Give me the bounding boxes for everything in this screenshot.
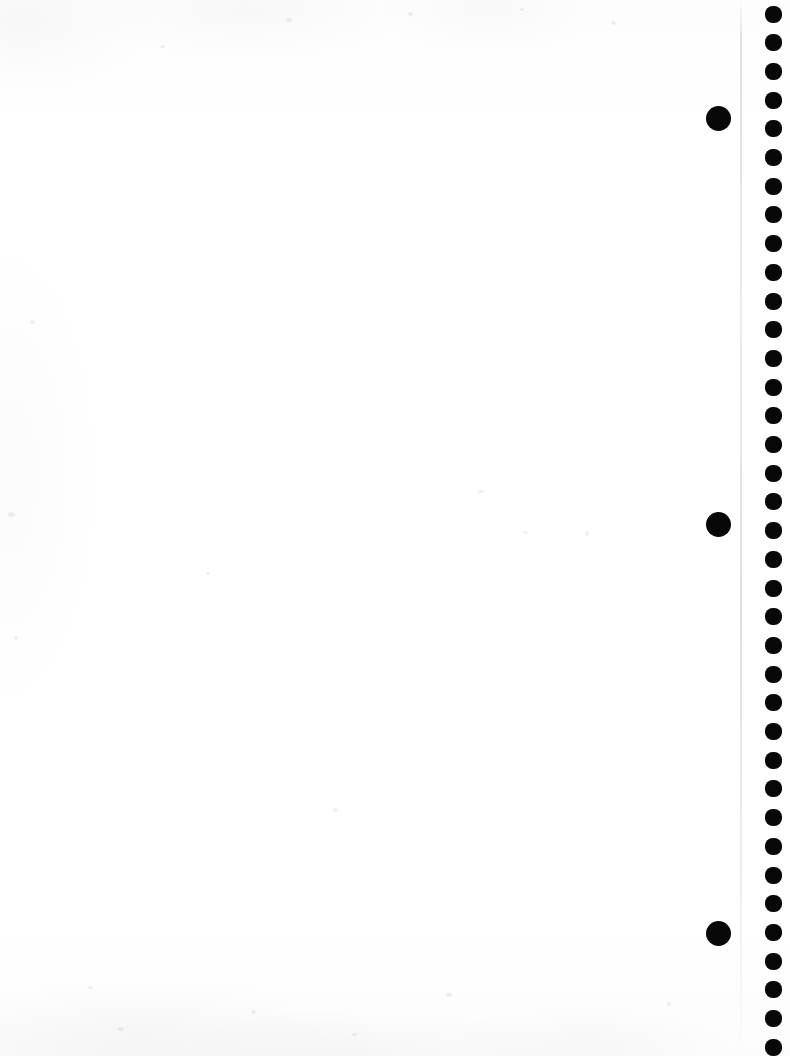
paper-speck-16 bbox=[667, 1002, 671, 1006]
small-punch-dot-5-icon bbox=[765, 120, 782, 137]
small-punch-dot-23-icon bbox=[765, 637, 782, 654]
small-punch-dot-13-icon bbox=[765, 350, 782, 367]
small-punch-dot-10-icon bbox=[765, 264, 782, 281]
small-punch-dot-35-icon bbox=[765, 981, 782, 998]
paper-speck-18 bbox=[206, 572, 210, 575]
small-punch-dot-7-icon bbox=[765, 178, 782, 195]
small-punch-dot-37-icon bbox=[765, 1039, 782, 1056]
paper-speck-1 bbox=[30, 320, 35, 324]
small-punch-dot-1-icon bbox=[765, 6, 782, 23]
small-punch-dot-8-icon bbox=[765, 206, 782, 223]
large-dot-3-icon bbox=[706, 921, 731, 946]
small-punch-dot-32-icon bbox=[765, 895, 782, 912]
paper-speck-11 bbox=[523, 531, 528, 534]
small-punch-dot-12-icon bbox=[765, 321, 782, 338]
paper-speck-3 bbox=[14, 636, 18, 640]
paper-speck-15 bbox=[352, 1033, 357, 1036]
small-punch-dot-28-icon bbox=[765, 780, 782, 797]
paper-speck-17 bbox=[88, 986, 93, 989]
small-punch-dot-36-icon bbox=[765, 1010, 782, 1027]
small-punch-dot-17-icon bbox=[765, 465, 782, 482]
paper-speck-13 bbox=[251, 1010, 256, 1014]
paper-speck-19 bbox=[333, 808, 338, 812]
small-punch-dot-9-icon bbox=[765, 235, 782, 252]
paper-speck-6 bbox=[408, 12, 413, 16]
small-punch-dot-26-icon bbox=[765, 723, 782, 740]
small-punch-dot-6-icon bbox=[765, 149, 782, 166]
small-punch-dot-25-icon bbox=[765, 694, 782, 711]
scanned-page bbox=[0, 0, 790, 1056]
page-body-text bbox=[0, 0, 1, 1]
paper-texture bbox=[0, 0, 790, 1056]
small-punch-dot-33-icon bbox=[765, 924, 782, 941]
crease-line bbox=[740, 0, 742, 1056]
paper-speck-10 bbox=[585, 531, 589, 536]
small-punch-dot-21-icon bbox=[765, 580, 782, 597]
small-punch-dot-34-icon bbox=[765, 953, 782, 970]
small-punch-dot-3-icon bbox=[765, 63, 782, 80]
small-punch-dot-22-icon bbox=[765, 608, 782, 625]
small-punch-dot-27-icon bbox=[765, 752, 782, 769]
small-punch-dot-30-icon bbox=[765, 838, 782, 855]
small-punch-dot-15-icon bbox=[765, 407, 782, 424]
paper-speck-12 bbox=[446, 993, 452, 997]
small-punch-dot-16-icon bbox=[765, 436, 782, 453]
paper-speck-9 bbox=[478, 490, 484, 493]
small-punch-dot-31-icon bbox=[765, 867, 782, 884]
paper-speck-7 bbox=[520, 8, 524, 11]
small-punch-dot-24-icon bbox=[765, 666, 782, 683]
small-punch-dot-18-icon bbox=[765, 493, 782, 510]
large-dot-1-icon bbox=[706, 106, 731, 131]
paper-speck-14 bbox=[118, 1027, 124, 1031]
small-punch-dot-20-icon bbox=[765, 551, 782, 568]
paper-speck-8 bbox=[611, 21, 616, 25]
small-punch-dot-2-icon bbox=[765, 34, 782, 51]
small-punch-dot-29-icon bbox=[765, 809, 782, 826]
large-dot-2-icon bbox=[706, 512, 731, 537]
paper-speck-2 bbox=[8, 512, 15, 517]
small-punch-dot-4-icon bbox=[765, 92, 782, 109]
paper-speck-5 bbox=[286, 18, 292, 22]
small-punch-dot-19-icon bbox=[765, 522, 782, 539]
small-punch-dot-14-icon bbox=[765, 379, 782, 396]
small-punch-dot-11-icon bbox=[765, 293, 782, 310]
paper-speck-4 bbox=[160, 45, 165, 48]
